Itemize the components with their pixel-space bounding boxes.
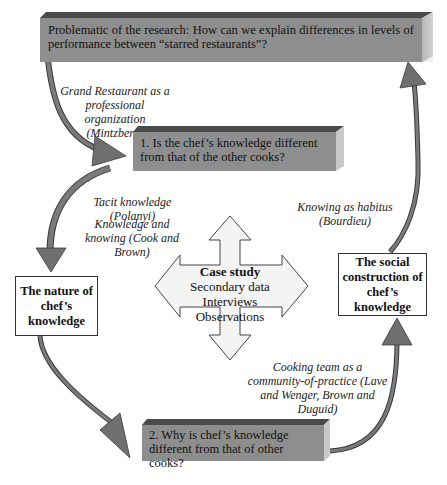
problem-box: Problematic of the research: How can we …	[40, 12, 433, 62]
question1-text: 1. Is the chef’s knowledge different fro…	[133, 132, 336, 171]
question2-box: 2. Why is chef’s knowledge different fro…	[142, 419, 330, 461]
problem-text: Problematic of the research: How can we …	[40, 18, 422, 62]
arrow-nature-to-q2	[40, 336, 130, 458]
case-study-item: Secondary data	[180, 279, 280, 294]
social-box-text: The social construction of chef’s knowle…	[339, 255, 426, 315]
label-community-of-practice: Cooking team as a community-of-practice …	[245, 360, 390, 416]
question1-box: 1. Is the chef’s knowledge different fro…	[133, 126, 344, 171]
social-construction-box: The social construction of chef’s knowle…	[338, 253, 427, 316]
case-study-item: Interviews	[180, 294, 280, 309]
nature-of-knowledge-box: The nature of chef’s knowledge	[15, 276, 98, 336]
case-study-block: Case study Secondary data Interviews Obs…	[180, 264, 280, 324]
nature-box-text: The nature of chef’s knowledge	[16, 284, 97, 329]
label-knowledge-and-knowing: Knowledge and knowing (Cook and Brown)	[82, 217, 182, 259]
label-knowing-as-habitus: Knowing as habitus (Bourdieu)	[290, 200, 400, 228]
case-study-item: Observations	[180, 309, 280, 324]
question2-text: 2. Why is chef’s knowledge different fro…	[142, 425, 324, 461]
case-study-title: Case study	[180, 264, 280, 279]
